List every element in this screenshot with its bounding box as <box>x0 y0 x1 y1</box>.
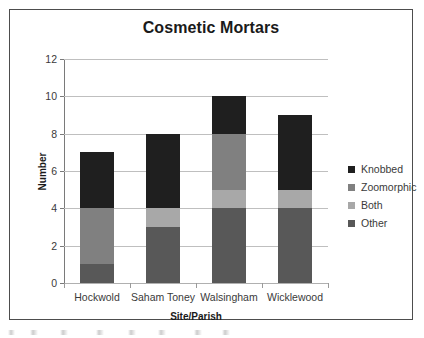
x-tick-mark <box>130 283 131 288</box>
bar-segment-other[interactable] <box>278 208 312 283</box>
legend-label: Both <box>361 199 383 211</box>
legend-item-other[interactable]: Other <box>348 214 416 232</box>
stacked-bar[interactable] <box>80 59 114 283</box>
bars-layer <box>64 59 328 283</box>
bar-segment-knobbed[interactable] <box>278 115 312 190</box>
bar-group <box>130 59 196 283</box>
bar-segment-knobbed[interactable] <box>146 134 180 209</box>
legend-label: Knobbed <box>361 163 403 175</box>
bar-segment-both[interactable] <box>212 190 246 209</box>
chart-title: Cosmetic Mortars <box>10 19 412 37</box>
bar-segment-other[interactable] <box>146 227 180 283</box>
x-tick-label-saham-toney: Saham Toney <box>130 291 196 303</box>
bar-group <box>262 59 328 283</box>
bar-segment-zoomorphic[interactable] <box>80 208 114 264</box>
bar-segment-zoomorphic[interactable] <box>212 134 246 190</box>
x-tick-mark <box>262 283 263 288</box>
y-tick-label: 6 <box>51 165 57 177</box>
bar-segment-knobbed[interactable] <box>212 96 246 133</box>
legend-label: Zoomorphic <box>361 181 416 193</box>
y-axis-title-label: Number <box>37 152 48 190</box>
x-tick-mark <box>64 283 65 288</box>
legend-swatch-icon <box>348 166 355 173</box>
legend-label: Other <box>361 217 387 229</box>
y-tick-label: 8 <box>51 128 57 140</box>
x-tick-label-hockwold: Hockwold <box>64 291 130 303</box>
legend-swatch-icon <box>348 184 355 191</box>
bar-group <box>196 59 262 283</box>
legend-swatch-icon <box>348 202 355 209</box>
legend-item-both[interactable]: Both <box>348 196 416 214</box>
y-tick-label: 12 <box>45 53 57 65</box>
bar-segment-knobbed[interactable] <box>80 152 114 208</box>
bar-segment-other[interactable] <box>212 208 246 283</box>
legend-item-zoomorphic[interactable]: Zoomorphic <box>348 178 416 196</box>
y-tick-label: 4 <box>51 202 57 214</box>
stacked-bar[interactable] <box>278 59 312 283</box>
stacked-bar[interactable] <box>212 59 246 283</box>
y-tick-label: 10 <box>45 90 57 102</box>
cropped-caption-sliver <box>8 330 338 335</box>
y-tick-label: 2 <box>51 240 57 252</box>
chart-legend: KnobbedZoomorphicBothOther <box>348 160 416 232</box>
legend-item-knobbed[interactable]: Knobbed <box>348 160 416 178</box>
bar-group <box>64 59 130 283</box>
x-axis-title: Site/Parish <box>64 311 328 322</box>
y-tick-label: 0 <box>51 277 57 289</box>
bar-segment-other[interactable] <box>80 264 114 283</box>
plot-area: 024681012 HockwoldSaham ToneyWalsinghamW… <box>64 59 328 283</box>
x-tick-mark <box>196 283 197 288</box>
legend-swatch-icon <box>348 220 355 227</box>
x-tick-label-walsingham: Walsingham <box>196 291 262 303</box>
x-tick-label-wicklewood: Wicklewood <box>262 291 328 303</box>
x-tick-mark <box>328 283 329 288</box>
bar-segment-both[interactable] <box>146 208 180 227</box>
chart-frame: Cosmetic Mortars Number 024681012 Hockwo… <box>9 9 413 320</box>
stacked-bar[interactable] <box>146 59 180 283</box>
bar-segment-both[interactable] <box>278 190 312 209</box>
